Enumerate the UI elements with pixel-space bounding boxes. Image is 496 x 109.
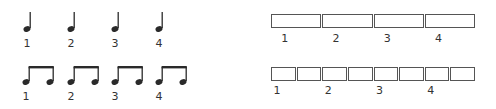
quarter-note-icon bbox=[155, 12, 164, 33]
beat-label: 2 bbox=[68, 91, 75, 102]
beat-box bbox=[271, 67, 296, 81]
beat-label: 2 bbox=[325, 85, 332, 96]
beat-box bbox=[374, 67, 399, 81]
quarter-note-icon bbox=[23, 12, 32, 33]
beat-label: 4 bbox=[427, 85, 434, 96]
beat-box bbox=[322, 14, 372, 28]
beat-box bbox=[271, 14, 321, 28]
quarter-note-icon bbox=[67, 12, 76, 33]
eighth-note-pair-icon bbox=[67, 66, 100, 86]
beat-label: 4 bbox=[435, 33, 442, 44]
beat-label: 4 bbox=[156, 91, 163, 102]
beat-label: 1 bbox=[281, 33, 288, 44]
beat-box bbox=[348, 67, 373, 81]
beat-box bbox=[322, 67, 347, 81]
beat-label: 3 bbox=[112, 91, 119, 102]
eighth-note-pair-icon bbox=[111, 66, 144, 86]
beat-box bbox=[297, 67, 322, 81]
beat-box bbox=[425, 14, 475, 28]
beat-label: 1 bbox=[274, 85, 281, 96]
eighth-note-pair-icon bbox=[22, 66, 55, 86]
quarter-note-icon bbox=[111, 12, 120, 33]
beat-label: 3 bbox=[376, 85, 383, 96]
beat-box bbox=[374, 14, 424, 28]
beat-label: 1 bbox=[24, 38, 31, 49]
eighth-note-pair-icon bbox=[155, 66, 188, 86]
beat-label: 2 bbox=[68, 38, 75, 49]
quarter-note-row bbox=[23, 12, 164, 33]
beat-label: 3 bbox=[112, 38, 119, 49]
notation-svg bbox=[0, 0, 200, 109]
beat-label: 2 bbox=[332, 33, 339, 44]
beat-label: 3 bbox=[384, 33, 391, 44]
beat-box bbox=[450, 67, 475, 81]
eighth-note-row bbox=[22, 66, 188, 86]
beat-box bbox=[425, 67, 450, 81]
beat-label: 4 bbox=[156, 38, 163, 49]
beat-box bbox=[399, 67, 424, 81]
beat-label: 1 bbox=[23, 91, 30, 102]
